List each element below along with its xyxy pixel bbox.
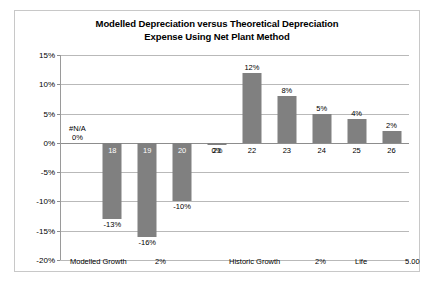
annotation-row: Modelled Growth2%Historic Growth2%Life5.… — [15, 257, 419, 268]
bar[interactable] — [138, 143, 157, 237]
y-axis-tick-label: -10% — [15, 197, 55, 206]
bar-slot: 8%23 — [269, 55, 304, 260]
x-axis-category-label: 18 — [108, 146, 116, 155]
bar-slot: 5%24 — [304, 55, 339, 260]
bar-value-label: 2% — [386, 121, 397, 130]
bar-value-label: 12% — [244, 63, 259, 72]
y-axis-tick-label: 15% — [15, 51, 55, 60]
bar-value-label: 5% — [316, 104, 327, 113]
bar-series: #N/A0%-13%18-16%19-10%200%2112%228%235%2… — [60, 55, 409, 260]
y-axis-tick-label: 5% — [15, 109, 55, 118]
annotation-value: 2% — [315, 257, 326, 266]
bar[interactable] — [347, 119, 366, 142]
bar-slot: #N/A0% — [60, 55, 95, 260]
bar-value-label: 8% — [281, 86, 292, 95]
bar-slot: 0%21 — [200, 55, 235, 260]
x-axis-category-label: 19 — [143, 146, 151, 155]
bar-value-label: 4% — [351, 109, 362, 118]
bar[interactable] — [312, 114, 331, 143]
x-axis-category-label: 26 — [387, 146, 395, 155]
na-error-label: #N/A — [69, 124, 86, 133]
annotation-value: 5.00 — [405, 257, 420, 266]
bar[interactable] — [382, 131, 401, 143]
x-axis-category-label: 20 — [178, 146, 186, 155]
bar-slot: 4%25 — [339, 55, 374, 260]
bar-slot: -13%18 — [95, 55, 130, 260]
bar-value-label: -16% — [138, 238, 156, 247]
bar[interactable] — [242, 73, 261, 143]
chart-title-line-2: Expense Using Net Plant Method — [15, 31, 419, 44]
annotation-label: Life — [355, 257, 367, 266]
plot-area: 15%10%5%0%-5%-10%-15%-20% #N/A0%-13%18-1… — [60, 55, 409, 260]
bar-value-label: -13% — [104, 220, 122, 229]
y-axis-tick-label: -5% — [15, 168, 55, 177]
bar-value-label: 0% — [69, 133, 86, 142]
y-axis-tick-label: 0% — [15, 138, 55, 147]
first-category-label-group: #N/A0% — [69, 124, 86, 142]
x-axis-category-label: 24 — [318, 146, 326, 155]
chart-title: Modelled Depreciation versus Theoretical… — [15, 18, 419, 43]
bar-slot: -16%19 — [130, 55, 165, 260]
bar-slot: 12%22 — [235, 55, 270, 260]
bar-value-label: -10% — [173, 202, 191, 211]
annotation-value: 2% — [155, 257, 166, 266]
y-axis-tick-label: -15% — [15, 226, 55, 235]
bar[interactable] — [277, 96, 296, 143]
bar-slot: 2%26 — [374, 55, 409, 260]
x-axis-category-label: 22 — [248, 146, 256, 155]
x-axis-category-label: 23 — [283, 146, 291, 155]
y-axis-tick-label: 10% — [15, 80, 55, 89]
chart-title-line-1: Modelled Depreciation versus Theoretical… — [15, 18, 419, 31]
annotation-label: Historic Growth — [229, 257, 280, 266]
x-axis-category-label: 21 — [213, 146, 221, 155]
x-axis-category-label: 25 — [352, 146, 360, 155]
bar-slot: -10%20 — [165, 55, 200, 260]
annotation-label: Modelled Growth — [70, 257, 127, 266]
chart-frame: Modelled Depreciation versus Theoretical… — [14, 10, 420, 272]
